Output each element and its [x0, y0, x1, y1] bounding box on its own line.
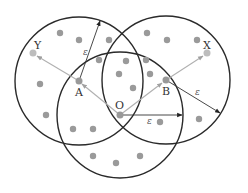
- data-point: [90, 153, 96, 159]
- point-a: [76, 78, 83, 85]
- data-point: [90, 126, 96, 132]
- label-o: O: [115, 99, 124, 112]
- data-point: [144, 30, 150, 36]
- data-point: [113, 160, 119, 166]
- point-o: [117, 112, 124, 119]
- data-point: [106, 37, 112, 43]
- data-point: [157, 119, 163, 125]
- data-point: [194, 37, 200, 43]
- label-y: Y: [33, 39, 42, 52]
- data-point: [164, 37, 170, 43]
- dbscan-diagram: ε ε ε Y X A B O: [0, 0, 248, 193]
- data-point: [143, 57, 149, 63]
- data-point: [116, 71, 122, 77]
- chain-arrow-b-to-x: [166, 56, 203, 80]
- chain-arrow-o-to-b: [120, 83, 162, 115]
- epsilon-label-b: ε: [195, 87, 200, 97]
- epsilon-label-a: ε: [83, 47, 88, 57]
- data-point: [43, 112, 49, 118]
- data-point: [196, 116, 202, 122]
- data-point: [147, 71, 153, 77]
- data-point: [37, 81, 43, 87]
- data-point: [123, 58, 129, 64]
- label-x: X: [203, 39, 211, 52]
- chain-arrow-a-to-y: [37, 56, 79, 81]
- label-a: A: [74, 86, 84, 99]
- data-point: [96, 57, 102, 63]
- data-point: [70, 126, 76, 132]
- data-point: [57, 30, 63, 36]
- epsilon-label-o: ε: [147, 116, 152, 126]
- point-b: [163, 77, 170, 84]
- data-points: [37, 30, 202, 166]
- radius-arrow-b: [166, 80, 220, 113]
- label-b: B: [162, 85, 170, 98]
- data-point: [76, 37, 82, 43]
- data-point: [130, 85, 136, 91]
- data-point: [137, 153, 143, 159]
